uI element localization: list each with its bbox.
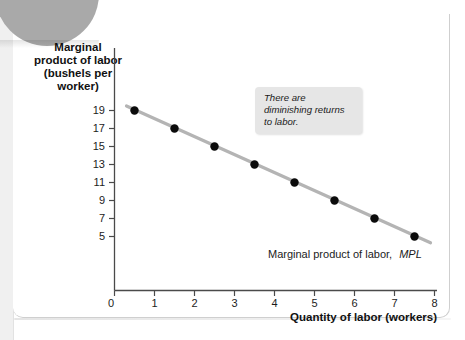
x-axis-ticks xyxy=(115,291,435,297)
y-tick-label-15: 15 xyxy=(93,140,105,152)
x-tick-label-1: 1 xyxy=(151,297,157,309)
y-tick-label-19: 19 xyxy=(93,104,105,116)
x-tick-label-3: 3 xyxy=(231,297,237,309)
series-label: Marginal product of labor, MPL xyxy=(268,248,422,260)
series-label-mpl: MPL xyxy=(399,248,422,260)
x-axis-title: Quantity of labor (workers) xyxy=(290,311,437,323)
data-point xyxy=(170,124,178,132)
mpl-chart: Marginal product of labor (bushels per w… xyxy=(0,0,465,340)
x-tick-label-5: 5 xyxy=(311,297,317,309)
x-tick-label-8: 8 xyxy=(431,297,437,309)
y-tick-label-5: 5 xyxy=(99,230,105,242)
x-tick-label-4: 4 xyxy=(271,297,277,309)
data-point xyxy=(410,232,418,240)
x-tick-label-6: 6 xyxy=(351,297,357,309)
diminishing-returns-callout: There are diminishing returns to labor. xyxy=(255,87,362,134)
x-tick-label-7: 7 xyxy=(391,297,397,309)
y-tick-label-17: 17 xyxy=(93,122,105,134)
y-axis-ticks xyxy=(109,111,115,237)
data-point xyxy=(290,178,298,186)
y-axis-title-line-2: product of labor xyxy=(34,54,123,66)
y-axis-title-line-1: Marginal xyxy=(54,41,101,53)
y-tick-label-9: 9 xyxy=(99,194,105,206)
data-point xyxy=(330,196,338,204)
y-tick-label-11: 11 xyxy=(94,176,105,188)
x-tick-label-0: 0 xyxy=(108,297,114,309)
y-tick-label-7: 7 xyxy=(99,212,105,224)
figure-page: Marginal product of labor (bushels per w… xyxy=(0,0,465,340)
callout-text: There are diminishing returns to labor. xyxy=(264,92,354,128)
data-point xyxy=(130,106,138,114)
y-tick-label-13: 13 xyxy=(93,158,105,170)
y-axis-title-line-3: (bushels per xyxy=(44,67,113,79)
series-label-text: Marginal product of labor, xyxy=(268,248,392,260)
y-axis-title-line-4: worker) xyxy=(56,80,99,92)
data-point xyxy=(370,214,378,222)
data-point xyxy=(210,142,218,150)
x-tick-label-2: 2 xyxy=(191,297,197,309)
data-point xyxy=(250,160,258,168)
